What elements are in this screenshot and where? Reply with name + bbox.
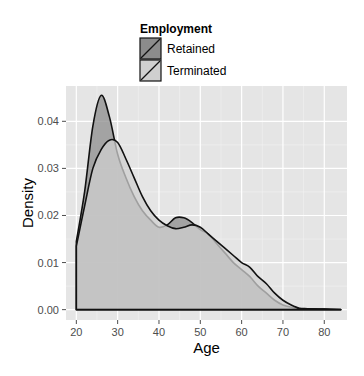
- y-tick-label: 0.03: [38, 162, 59, 174]
- y-tick-label: 0.02: [38, 209, 59, 221]
- y-tick-label: 0.04: [38, 115, 59, 127]
- legend-title: Employment: [140, 22, 212, 36]
- legend-key-terminated: [140, 60, 161, 81]
- legend-label: Retained: [167, 42, 215, 56]
- y-axis: 0.000.010.020.030.04: [38, 115, 66, 315]
- x-tick-label: 50: [194, 326, 206, 338]
- legend: Employment RetainedTerminated: [140, 22, 226, 81]
- x-tick-label: 40: [153, 326, 165, 338]
- x-axis-title: Age: [193, 339, 220, 356]
- x-tick-label: 20: [70, 326, 82, 338]
- legend-label: Terminated: [167, 64, 226, 78]
- y-axis-title: Density: [19, 177, 36, 228]
- x-tick-label: 70: [277, 326, 289, 338]
- x-tick-label: 30: [112, 326, 124, 338]
- density-chart: 0.000.010.020.030.04 20304050607080 Age …: [0, 0, 364, 376]
- x-tick-label: 80: [318, 326, 330, 338]
- y-tick-label: 0.01: [38, 257, 59, 269]
- legend-key-retained: [140, 38, 161, 59]
- y-tick-label: 0.00: [38, 304, 59, 316]
- x-axis: 20304050607080: [70, 320, 330, 338]
- x-tick-label: 60: [236, 326, 248, 338]
